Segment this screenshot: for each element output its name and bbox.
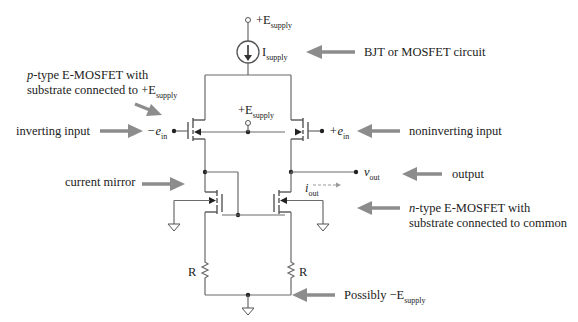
mid-supply-terminal [246,121,251,126]
annotation-arrow-noninverting [357,124,400,138]
annotation-ntype-line1: n-type E-MOSFET with [409,201,531,215]
annotation-ntype-line2: substrate connected to common [409,216,568,230]
annotation-noninverting-input: noninverting input [409,124,502,138]
iout-label: iout [305,181,319,198]
mid-supply-label: +Esupply [238,103,274,120]
annotation-arrow-ptype [135,104,162,116]
annotation-possibly-neg-supply: Possibly −Esupply [344,288,426,305]
annotation-arrow-current-mirror [142,177,185,191]
annotation-arrow-possibly [292,288,335,302]
top-supply-terminal [246,18,251,23]
noninv-input-label: +ein [329,124,349,141]
pmos-left-icon [188,118,205,141]
current-source-icon [237,41,259,63]
ground-bottom-icon [242,308,254,315]
current-source-label: Isupply [262,45,288,62]
ground-left-icon [168,224,180,231]
annotation-ptype-line1: p-type E-MOSFET with [26,68,149,82]
resistor-right-label: R [299,265,308,279]
nmos-left-icon [205,190,222,214]
annotation-output: output [452,167,484,181]
annotation-arrow-bjt [306,45,355,59]
annotation-inverting-input: inverting input [16,124,90,138]
annotation-arrow-ntype [357,201,400,215]
annotation-arrow-output [402,167,442,181]
nmos-right-icon [274,190,291,214]
iout-arrow-icon [336,183,341,188]
circuit-diagram: +Esupply Isupply −ein +Esupply [0,0,578,322]
annotation-bjt-or-mosfet: BJT or MOSFET circuit [364,45,486,59]
vout-label: vout [364,165,381,182]
ground-right-icon [317,224,329,231]
vout-node [354,170,358,174]
pmos-right-icon [291,118,308,141]
inv-input-node [172,129,176,133]
annotation-arrow-inverting [100,124,143,138]
resistor-left-icon [202,258,208,295]
noninv-input-node [320,129,324,133]
annotation-ptype-line2: substrate connected to +Esupply [27,83,177,100]
resistor-right-icon [288,258,294,295]
resistor-left-label: R [188,265,197,279]
inv-input-label: −ein [147,124,167,141]
annotation-current-mirror: current mirror [65,175,136,189]
top-supply-label: +Esupply [256,13,292,30]
